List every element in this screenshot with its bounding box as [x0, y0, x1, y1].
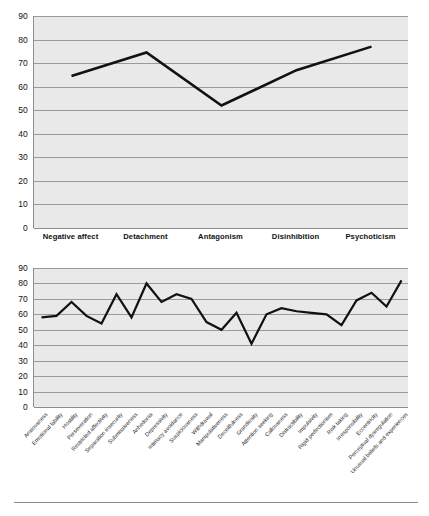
x-axis-label-disinhibition: Disinhibition: [272, 232, 319, 241]
x-axis-labels-facets: AnxiousnessEmotional labilityHostilityPe…: [0, 410, 429, 516]
y-axis-tick-labels-facets: 9080706050403020100: [8, 268, 28, 407]
y-axis-tick-label: 40: [18, 341, 28, 350]
y-axis-tick-label: 80: [18, 35, 28, 44]
chart-facets: 9080706050403020100 AnxiousnessEmotional…: [0, 258, 429, 508]
x-axis-label-psychoticism: Psychoticism: [345, 232, 395, 241]
x-axis-label-antagonism: Antagonism: [198, 232, 243, 241]
y-axis-tick-labels-domains: 9080706050403020100: [8, 16, 28, 228]
plot-area-facets: [33, 268, 408, 407]
x-axis-label-detachment: Detachment: [123, 232, 167, 241]
y-axis-tick-label: 50: [18, 106, 28, 115]
y-axis-tick-label: 90: [18, 12, 28, 21]
y-axis-tick-label: 60: [18, 310, 28, 319]
series-path-facets: [42, 280, 402, 343]
y-axis-tick-label: 40: [18, 130, 28, 139]
plot-area-domains: [33, 16, 408, 228]
gridline: [34, 407, 408, 408]
gridline: [34, 228, 408, 229]
y-axis-tick-label: 70: [18, 59, 28, 68]
y-axis-tick-label: 20: [18, 372, 28, 381]
y-axis-tick-label: 90: [18, 264, 28, 273]
y-axis-tick-label: 60: [18, 82, 28, 91]
line-series-facets: [34, 268, 409, 407]
y-axis-tick-label: 50: [18, 326, 28, 335]
y-axis-tick-label: 70: [18, 295, 28, 304]
y-axis-tick-label: 0: [23, 224, 28, 233]
series-path-domains: [72, 47, 372, 106]
y-axis-tick-label: 80: [18, 279, 28, 288]
y-axis-tick-label: 10: [18, 200, 28, 209]
y-axis-tick-label: 30: [18, 153, 28, 162]
footer-divider: [14, 502, 418, 503]
chart-domains: 9080706050403020100 Negative affectDetac…: [0, 0, 429, 256]
x-axis-label-negative-affect: Negative affect: [43, 232, 99, 241]
y-axis-tick-label: 30: [18, 356, 28, 365]
y-axis-tick-label: 10: [18, 387, 28, 396]
line-series-domains: [34, 16, 409, 228]
y-axis-tick-label: 20: [18, 177, 28, 186]
figure-root: 9080706050403020100 Negative affectDetac…: [0, 0, 429, 516]
